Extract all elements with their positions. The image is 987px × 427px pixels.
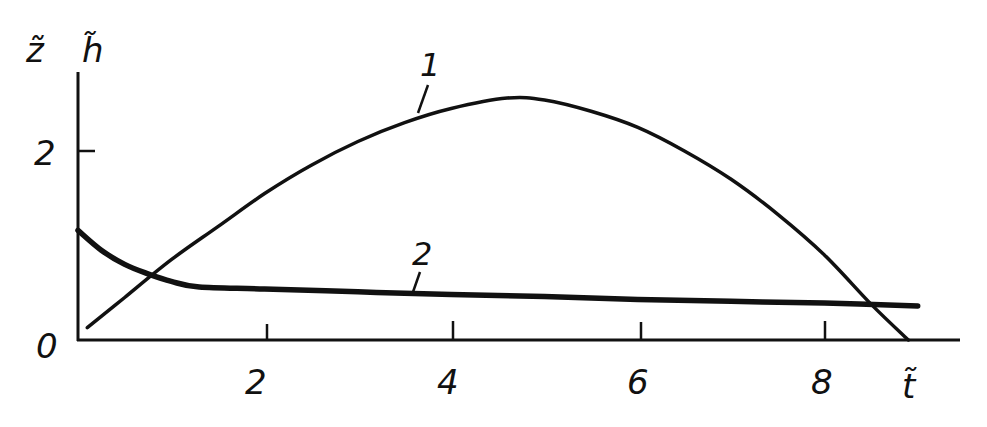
curve-1-leader — [418, 85, 428, 113]
xtick-label-6: 6 — [627, 362, 649, 402]
x-axis-label-t: t̃ — [902, 366, 917, 406]
curve-2 — [78, 230, 918, 306]
xtick-label-4: 4 — [437, 362, 459, 402]
curve-2-label: 2 — [412, 235, 432, 273]
y-axis-label-z: z̃ — [25, 30, 45, 70]
origin-label: 0 — [36, 326, 58, 366]
xtick-label-2: 2 — [245, 362, 267, 402]
chart: z̃ h̃ 2 0 2 4 6 8 t̃ 1 2 — [0, 0, 987, 427]
xtick-label-8: 8 — [811, 362, 833, 402]
y-axis-label-h: h̃ — [82, 30, 104, 70]
ytick-label-2: 2 — [34, 133, 56, 173]
curve-1-label: 1 — [420, 46, 440, 84]
curve-2-leader — [413, 272, 420, 292]
